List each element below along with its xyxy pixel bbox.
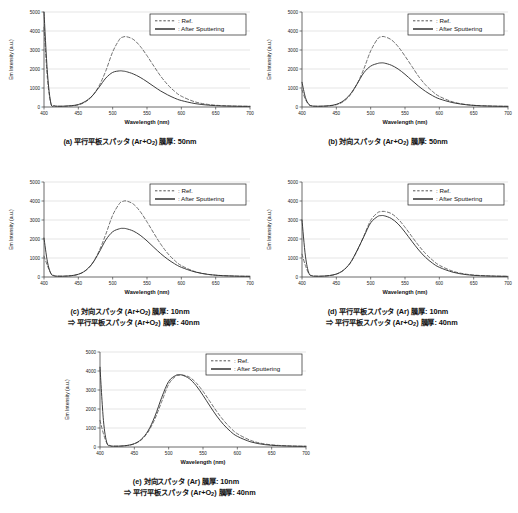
svg-text:450: 450	[332, 111, 340, 116]
svg-text:600: 600	[435, 281, 443, 286]
emission-spectrum-chart-b: 0100020003000400050004004505005506006507…	[262, 4, 514, 136]
svg-text:: After Sputtering: : After Sputtering	[178, 25, 225, 32]
svg-text:400: 400	[96, 451, 104, 456]
chart-panel-b: 0100020003000400050004004505005506006507…	[262, 4, 514, 148]
svg-text:650: 650	[470, 281, 478, 286]
svg-text:3000: 3000	[30, 218, 41, 223]
svg-text:600: 600	[233, 451, 241, 456]
svg-text:500: 500	[367, 111, 375, 116]
caption-b: (b) 対向スパッタ (Ar+O2) 膜厚: 50nm	[262, 137, 514, 148]
svg-text:4000: 4000	[30, 29, 41, 34]
svg-text:500: 500	[367, 281, 375, 286]
svg-text:400: 400	[298, 281, 306, 286]
svg-text:450: 450	[332, 281, 340, 286]
svg-text:4000: 4000	[30, 199, 41, 204]
svg-text:Em Intensity (a.u.): Em Intensity (a.u.)	[8, 39, 14, 80]
svg-text:4000: 4000	[288, 199, 299, 204]
svg-text:0: 0	[37, 105, 40, 110]
svg-text:700: 700	[246, 111, 254, 116]
svg-text:3000: 3000	[288, 218, 299, 223]
svg-text:: Ref.: : Ref.	[436, 187, 451, 194]
svg-text:Wavelength (nm): Wavelength (nm)	[125, 119, 170, 125]
svg-text:450: 450	[74, 111, 82, 116]
emission-spectrum-chart-e: 0100020003000400050004004505005506006507…	[60, 344, 312, 476]
svg-text:0: 0	[93, 445, 96, 450]
emission-spectrum-chart-c: 0100020003000400050004004505005506006507…	[4, 174, 256, 306]
svg-text:650: 650	[268, 451, 276, 456]
svg-text:700: 700	[302, 451, 310, 456]
svg-text:2000: 2000	[288, 67, 299, 72]
svg-text:550: 550	[143, 111, 151, 116]
svg-text:Em Intensity (a.u.): Em Intensity (a.u.)	[266, 39, 272, 80]
svg-text:5000: 5000	[288, 10, 299, 15]
svg-text:650: 650	[212, 111, 220, 116]
svg-text:: Ref.: : Ref.	[436, 17, 451, 24]
svg-text:2000: 2000	[86, 407, 97, 412]
svg-text:4000: 4000	[86, 369, 97, 374]
emission-spectrum-chart-a: 0100020003000400050004004505005506006507…	[4, 4, 256, 136]
svg-text:: After Sputtering: : After Sputtering	[178, 195, 225, 202]
figure-sheet: 0100020003000400050004004505005506006507…	[0, 0, 518, 513]
svg-text:Wavelength (nm): Wavelength (nm)	[383, 119, 428, 125]
svg-text:700: 700	[504, 111, 512, 116]
svg-text:5000: 5000	[30, 180, 41, 185]
svg-text:: Ref.: : Ref.	[178, 187, 193, 194]
svg-text:4000: 4000	[288, 29, 299, 34]
svg-text:Wavelength (nm): Wavelength (nm)	[383, 289, 428, 295]
svg-text:2000: 2000	[30, 67, 41, 72]
svg-text:500: 500	[165, 451, 173, 456]
chart-panel-a: 0100020003000400050004004505005506006507…	[4, 4, 256, 148]
svg-text:: Ref.: : Ref.	[178, 17, 193, 24]
svg-text:600: 600	[177, 111, 185, 116]
svg-text:Em Intensity (a.u.): Em Intensity (a.u.)	[8, 209, 14, 250]
svg-text:0: 0	[295, 105, 298, 110]
svg-text:0: 0	[37, 275, 40, 280]
plot-area-e: 0100020003000400050004004505005506006507…	[60, 344, 312, 476]
svg-text:500: 500	[109, 281, 117, 286]
svg-text:2000: 2000	[288, 237, 299, 242]
svg-text:2000: 2000	[30, 237, 41, 242]
svg-text:650: 650	[470, 111, 478, 116]
svg-text:1000: 1000	[288, 256, 299, 261]
svg-text:Wavelength (nm): Wavelength (nm)	[181, 459, 226, 465]
plot-area-b: 0100020003000400050004004505005506006507…	[262, 4, 514, 136]
caption-c: (c) 対向スパッタ (Ar+O2) 膜厚: 10nm⇒ 平行平板スパッタ (A…	[4, 307, 256, 328]
svg-text:3000: 3000	[86, 388, 97, 393]
svg-text:1000: 1000	[30, 86, 41, 91]
svg-text:500: 500	[109, 111, 117, 116]
svg-text:5000: 5000	[30, 10, 41, 15]
svg-text:450: 450	[130, 451, 138, 456]
svg-text:: After Sputtering: : After Sputtering	[436, 25, 483, 32]
svg-text:: After Sputtering: : After Sputtering	[436, 195, 483, 202]
svg-text:550: 550	[401, 281, 409, 286]
svg-text:600: 600	[435, 111, 443, 116]
svg-text:550: 550	[199, 451, 207, 456]
svg-text:700: 700	[504, 281, 512, 286]
svg-text:450: 450	[74, 281, 82, 286]
chart-panel-d: 0100020003000400050004004505005506006507…	[262, 174, 514, 328]
svg-text:700: 700	[246, 281, 254, 286]
svg-text:0: 0	[295, 275, 298, 280]
caption-a: (a) 平行平板スパッタ (Ar+O2) 膜厚: 50nm	[4, 137, 256, 148]
svg-text:3000: 3000	[288, 48, 299, 53]
svg-text:1000: 1000	[288, 86, 299, 91]
svg-text:550: 550	[143, 281, 151, 286]
svg-text:5000: 5000	[288, 180, 299, 185]
svg-text:1000: 1000	[30, 256, 41, 261]
svg-text:5000: 5000	[86, 350, 97, 355]
svg-text:400: 400	[40, 111, 48, 116]
svg-text:650: 650	[212, 281, 220, 286]
svg-text:1000: 1000	[86, 426, 97, 431]
caption-e: (e) 対向スパッタ (Ar) 膜厚: 10nm⇒ 平行平板スパッタ (Ar+O…	[60, 477, 312, 498]
svg-text:550: 550	[401, 111, 409, 116]
svg-text:3000: 3000	[30, 48, 41, 53]
svg-text:400: 400	[298, 111, 306, 116]
plot-area-a: 0100020003000400050004004505005506006507…	[4, 4, 256, 136]
svg-text:600: 600	[177, 281, 185, 286]
svg-text:400: 400	[40, 281, 48, 286]
emission-spectrum-chart-d: 0100020003000400050004004505005506006507…	[262, 174, 514, 306]
chart-panel-c: 0100020003000400050004004505005506006507…	[4, 174, 256, 328]
plot-area-d: 0100020003000400050004004505005506006507…	[262, 174, 514, 306]
svg-text:Em Intensity (a.u.): Em Intensity (a.u.)	[266, 209, 272, 250]
svg-text:: Ref.: : Ref.	[234, 357, 249, 364]
